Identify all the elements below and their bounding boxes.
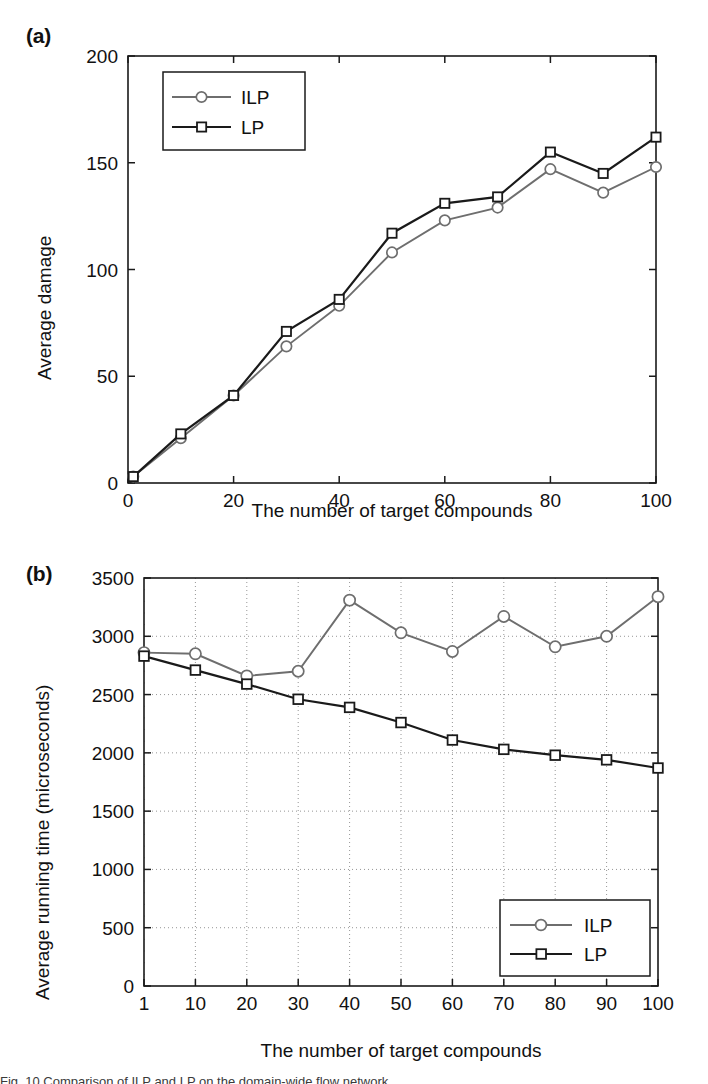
chart-panel-a: (a) Average damage The number of target … — [0, 0, 708, 540]
panel-b-y-tick-label: 2500 — [92, 685, 134, 706]
panel-b-point-ilp — [344, 595, 355, 606]
panel-b-point-ilp — [652, 591, 663, 602]
panel-b-point-lp — [345, 703, 355, 713]
panel-a-legend-box — [163, 72, 305, 150]
figure-caption: Fig. 10 Comparison of ILP and LP on the … — [0, 1074, 708, 1084]
panel-a-point-lp — [493, 192, 502, 201]
panel-b-plot: 0500100015002000250030003500110203040506… — [0, 540, 708, 1040]
panel-a-point-lp — [335, 295, 344, 304]
panel-b-x-tick-label: 40 — [339, 993, 360, 1014]
panel-a-y-tick-label: 0 — [107, 473, 118, 494]
panel-a-point-lp — [282, 327, 291, 336]
panel-b-point-lp — [550, 750, 560, 760]
panel-a-plot: 050100150200020406080100ILPLP — [0, 0, 708, 500]
panel-b-point-lp — [242, 679, 252, 689]
panel-a-legend-marker-ilp — [196, 92, 206, 102]
panel-b-y-tick-label: 3500 — [92, 568, 134, 589]
panel-b-x-tick-label: 100 — [642, 993, 674, 1014]
panel-a-point-lp — [129, 472, 138, 481]
panel-b-x-tick-label: 70 — [493, 993, 514, 1014]
panel-b-legend-box — [500, 900, 650, 976]
panel-b-x-tick-label: 10 — [185, 993, 206, 1014]
panel-a-y-tick-label: 200 — [86, 46, 118, 67]
panel-a-legend-label-lp: LP — [241, 117, 264, 138]
panel-a-point-lp — [387, 229, 396, 238]
panel-a-y-tick-label: 100 — [86, 260, 118, 281]
panel-b-x-tick-label: 20 — [236, 993, 257, 1014]
panel-b-x-tick-label: 50 — [390, 993, 411, 1014]
panel-a-x-tick-label: 60 — [434, 490, 455, 511]
panel-a-series-ilp — [133, 167, 656, 477]
panel-a-point-ilp — [440, 215, 450, 225]
panel-a-point-ilp — [651, 162, 661, 172]
panel-b-point-lp — [191, 665, 201, 675]
panel-a-x-tick-label: 100 — [640, 490, 672, 511]
panel-b-legend-label-ilp: ILP — [584, 915, 613, 936]
panel-b-x-tick-label: 60 — [442, 993, 463, 1014]
panel-a-x-tick-label: 0 — [123, 490, 134, 511]
panel-b-point-ilp — [498, 611, 509, 622]
panel-a-x-axis-label: The number of target compounds — [128, 500, 656, 522]
panel-b-y-tick-label: 500 — [102, 918, 134, 939]
panel-a-series-lp — [133, 137, 656, 476]
panel-a-point-ilp — [598, 187, 608, 197]
panel-b-y-tick-label: 2000 — [92, 743, 134, 764]
panel-b-point-ilp — [601, 631, 612, 642]
panel-b-point-ilp — [293, 666, 304, 677]
panel-b-x-tick-label: 90 — [596, 993, 617, 1014]
panel-b-y-tick-label: 1000 — [92, 859, 134, 880]
panel-b-x-tick-label: 1 — [139, 993, 150, 1014]
panel-a-point-lp — [176, 429, 185, 438]
panel-b-y-tick-label: 3000 — [92, 626, 134, 647]
panel-b-legend-label-lp: LP — [584, 944, 607, 965]
panel-b-point-lp — [139, 651, 149, 661]
panel-a-point-lp — [599, 169, 608, 178]
panel-a-point-ilp — [387, 247, 397, 257]
panel-a-x-tick-label: 80 — [540, 490, 561, 511]
panel-b-point-lp — [602, 755, 612, 765]
chart-panel-b: (b) Average running time (microseconds) … — [0, 540, 708, 1084]
panel-b-x-axis-label: The number of target compounds — [144, 1040, 658, 1062]
panel-a-x-tick-label: 20 — [223, 490, 244, 511]
panel-a-point-lp — [546, 147, 555, 156]
panel-b-point-ilp — [447, 646, 458, 657]
panel-b-y-tick-label: 0 — [123, 976, 134, 997]
panel-b-series-lp — [144, 656, 658, 768]
panel-b-point-lp — [293, 694, 303, 704]
panel-b-point-lp — [499, 745, 509, 755]
panel-a-point-ilp — [492, 202, 502, 212]
panel-b-x-tick-label: 80 — [545, 993, 566, 1014]
panel-b-point-ilp — [550, 641, 561, 652]
panel-b-point-ilp — [190, 648, 201, 659]
panel-a-point-lp — [229, 391, 238, 400]
panel-a-point-ilp — [545, 164, 555, 174]
panel-b-y-tick-label: 1500 — [92, 801, 134, 822]
panel-a-legend-marker-lp — [197, 122, 206, 131]
panel-a-point-lp — [651, 133, 660, 142]
panel-a-y-tick-label: 50 — [97, 366, 118, 387]
panel-b-legend-marker-lp — [536, 949, 546, 959]
panel-a-point-ilp — [281, 341, 291, 351]
panel-a-legend-label-ilp: ILP — [241, 87, 270, 108]
figure-container: (a) Average damage The number of target … — [0, 0, 708, 1084]
panel-b-point-lp — [448, 735, 458, 745]
panel-b-x-tick-label: 30 — [288, 993, 309, 1014]
panel-a-x-tick-label: 40 — [329, 490, 350, 511]
panel-b-point-lp — [396, 718, 406, 728]
panel-a-point-lp — [440, 199, 449, 208]
panel-b-point-lp — [653, 763, 663, 773]
panel-b-point-ilp — [395, 627, 406, 638]
panel-a-y-tick-label: 150 — [86, 153, 118, 174]
panel-b-legend-marker-ilp — [536, 920, 547, 931]
